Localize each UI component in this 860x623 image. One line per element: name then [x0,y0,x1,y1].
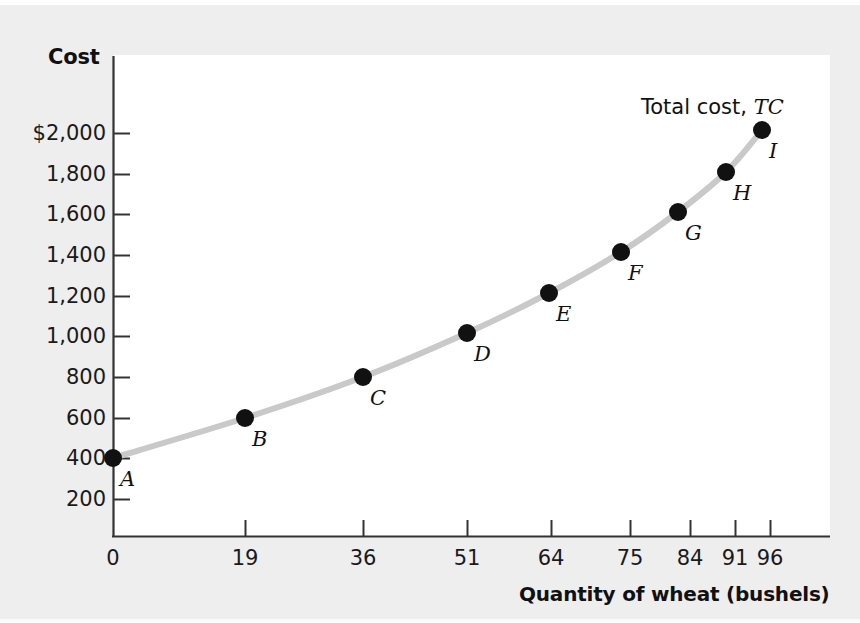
x-tick-label: 91 [722,546,749,570]
y-tick-label: 1,000 [46,324,106,348]
data-point-h[interactable] [717,163,735,181]
data-point-label-b: B [252,427,267,451]
y-tick-label: $2,000 [33,121,106,145]
data-point-label-c: C [370,386,386,410]
data-point-f[interactable] [612,243,630,261]
data-point-label-i: I [769,139,777,163]
curve-annotation-text: Total cost, [641,95,747,119]
data-point-label-a: A [120,467,135,491]
x-axis-title: Quantity of wheat (bushels) [519,582,830,606]
data-point-g[interactable] [669,203,687,221]
data-point-i[interactable] [753,121,771,139]
curve-annotation: Total cost, TC [641,95,784,119]
x-tick-label: 51 [454,546,481,570]
figure-container: Cost Quantity of wheat (bushels) Total c… [0,0,860,623]
data-point-b[interactable] [236,409,254,427]
y-tick-label: 1,800 [46,162,106,186]
data-point-label-d: D [474,342,491,366]
data-point-label-h: H [733,181,751,205]
x-tick-label: 36 [350,546,377,570]
y-tick-label: 1,200 [46,284,106,308]
curve-annotation-symbol: TC [754,95,784,119]
data-point-label-g: G [685,221,702,245]
x-tick-label: 19 [232,546,259,570]
data-point-a[interactable] [104,449,122,467]
x-tick-label: 75 [617,546,644,570]
data-point-label-e: E [556,302,571,326]
x-tick-label: 96 [757,546,784,570]
x-tick-label: 84 [677,546,704,570]
x-tick-label: 64 [538,546,565,570]
data-point-c[interactable] [354,368,372,386]
cost-curve-chart [0,0,860,623]
x-tick-label: 0 [106,546,119,570]
y-axis-title: Cost [48,45,100,69]
data-point-d[interactable] [458,324,476,342]
y-tick-label: 1,600 [46,202,106,226]
data-point-e[interactable] [540,284,558,302]
y-tick-label: 200 [66,487,106,511]
y-tick-label: 1,400 [46,243,106,267]
y-tick-label: 800 [66,365,106,389]
y-tick-label: 600 [66,406,106,430]
plot-panel [113,55,830,537]
data-point-label-f: F [628,261,643,285]
y-tick-label: 400 [66,446,106,470]
